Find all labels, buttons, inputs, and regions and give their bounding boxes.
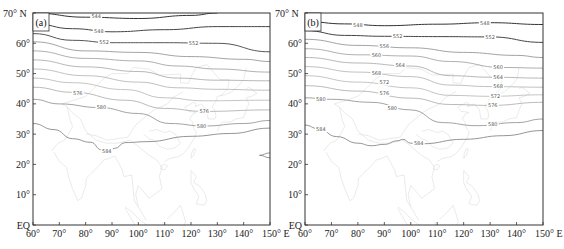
x-tick-label: 150° E (535, 228, 563, 239)
contour-label: 584 (316, 126, 326, 132)
x-tick-label: 70° (324, 228, 338, 239)
x-tick-label: 130° (208, 228, 227, 239)
x-tick-label: 70° (52, 228, 66, 239)
contour-label: 584 (102, 148, 112, 154)
y-tick-label: 40° (288, 98, 302, 109)
contour-label: 580 (197, 123, 207, 129)
figure: 544548552552576576580580584(a)60°70°80°9… (0, 0, 564, 249)
y-tick-label: EQ (289, 220, 303, 231)
panel-a-map: 544548552552576576580580584(a)60°70°80°9… (3, 8, 290, 242)
contour-label: 564 (395, 62, 405, 68)
y-tick-label: 20° (16, 159, 30, 170)
x-tick-label: 140° (234, 228, 253, 239)
y-tick-label: 10° (16, 189, 30, 200)
contour-label: 580 (488, 121, 498, 127)
contour-label: 560 (372, 52, 382, 58)
panel-label: (a) (33, 13, 49, 31)
contour-label: 564 (493, 74, 503, 80)
panel-b-map: 5485485525525565605605645645685685725725… (275, 8, 563, 242)
x-tick-label: 80° (351, 228, 365, 239)
contour-label: 552 (393, 33, 403, 39)
x-tick-label: 130° (481, 228, 500, 239)
contour-label: 552 (99, 39, 109, 45)
y-tick-label: 60° (288, 38, 302, 49)
contour-label: 572 (491, 93, 501, 99)
plot-area: 5485485525525565605605645645685685725725… (305, 20, 543, 242)
x-tick-label: 110° (428, 228, 447, 239)
y-tick-label: 50° (288, 68, 302, 79)
contour-label: 572 (380, 79, 390, 85)
y-tick-label: 30° (288, 129, 302, 140)
contour-label: 576 (199, 108, 209, 114)
plot-frame (305, 13, 543, 225)
y-tick-label: 70° N (275, 8, 299, 19)
contour-label: 576 (73, 90, 83, 96)
contour-label: 548 (353, 22, 363, 28)
contour-line-584 (260, 153, 271, 158)
plot-area: 544548552552576576580580584 (33, 13, 270, 242)
y-tick-label: 30° (16, 129, 30, 140)
y-tick-label: 50° (16, 68, 30, 79)
y-tick-label: EQ (17, 220, 31, 231)
svg-text:(a): (a) (35, 17, 46, 29)
y-tick-label: 10° (288, 189, 302, 200)
contour-line-548 (305, 22, 543, 26)
contour-label: 576 (380, 90, 390, 96)
contour-line-584 (33, 124, 270, 152)
y-tick-label: 20° (288, 159, 302, 170)
y-tick-label: 70° N (3, 8, 27, 19)
contour-label: 560 (493, 64, 503, 70)
contour-line-560 (33, 51, 270, 72)
contour-label: 568 (493, 83, 503, 89)
x-tick-label: 100° (129, 228, 148, 239)
contour-line-568 (305, 67, 543, 88)
contour-label: 544 (91, 13, 101, 19)
contour-line-568 (33, 69, 270, 90)
x-tick-label: 90° (105, 228, 119, 239)
panel-label: (b) (305, 13, 321, 31)
x-tick-label: 120° (454, 228, 473, 239)
contour-label: 580 (97, 104, 107, 110)
svg-text:(b): (b) (307, 17, 319, 29)
contour-line-576 (33, 87, 270, 111)
contour-label: 548 (480, 20, 490, 26)
contour-label: 568 (372, 70, 382, 76)
contour-label: 576 (488, 102, 498, 108)
contour-label: 584 (414, 140, 424, 146)
x-tick-label: 120° (182, 228, 201, 239)
x-tick-label: 140° (507, 228, 526, 239)
contour-label: 552 (485, 34, 495, 40)
contour-line-556 (305, 39, 543, 57)
x-tick-label: 110° (155, 228, 174, 239)
x-tick-label: 150° E (262, 228, 290, 239)
x-tick-label: 100° (401, 228, 420, 239)
contour-label: 580 (387, 105, 397, 111)
y-tick-label: 60° (16, 38, 30, 49)
contour-line-544 (33, 13, 217, 19)
contour-label: 548 (94, 28, 104, 34)
contour-line-576 (305, 86, 543, 106)
contour-label: 556 (380, 43, 390, 49)
x-tick-label: 80° (79, 228, 93, 239)
contour-label: 552 (189, 40, 199, 46)
contour-line-548 (33, 24, 270, 32)
y-tick-label: 40° (16, 98, 30, 109)
contour-line-560 (305, 49, 543, 68)
x-tick-label: 90° (377, 228, 391, 239)
contour-label: 580 (316, 96, 326, 102)
contour-line-552 (305, 31, 543, 43)
